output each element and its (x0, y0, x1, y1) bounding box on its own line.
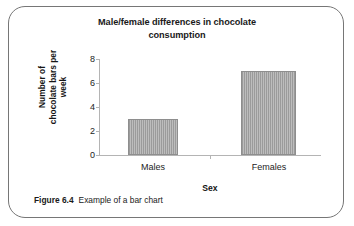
y-tick-mark-2 (96, 131, 99, 132)
x-tick-label-males: Males (123, 162, 183, 173)
y-axis-title-line-2: chocolate bars per week (48, 39, 69, 135)
y-tick-mark-4 (96, 107, 99, 108)
bar-males (128, 119, 178, 155)
bar-females (241, 71, 296, 155)
figure-caption-text: Example of a bar chart (79, 195, 163, 205)
x-tick-label-females: Females (235, 162, 303, 173)
y-axis-tick-labels: 8 6 4 2 0 (81, 59, 95, 155)
y-tick-label-0: 0 (81, 151, 95, 160)
y-tick-label-8: 8 (81, 55, 95, 64)
y-tick-label-4: 4 (81, 103, 95, 112)
y-tick-mark-0 (96, 155, 99, 156)
x-axis-tick-mark (210, 155, 211, 159)
y-axis-title: Number of chocolate bars per week (37, 39, 81, 135)
y-tick-label-6: 6 (81, 79, 95, 88)
chart-title-line-2: consumption (43, 29, 311, 42)
y-tick-mark-8 (96, 59, 99, 60)
chart-title-line-1: Male/female differences in chocolate (43, 16, 311, 29)
x-axis-title: Sex (99, 183, 321, 193)
chart-title: Male/female differences in chocolate con… (43, 16, 311, 41)
y-tick-mark-6 (96, 83, 99, 84)
figure-card: Male/female differences in chocolate con… (8, 6, 344, 218)
figure-caption-number: Figure 6.4 (34, 195, 74, 205)
y-tick-label-2: 2 (81, 127, 95, 136)
y-axis-title-line-1: Number of (37, 39, 48, 135)
y-axis-line (99, 59, 100, 155)
figure-caption: Figure 6.4Example of a bar chart (34, 195, 163, 205)
bar-chart-plot: Number of chocolate bars per week 8 6 4 … (29, 59, 325, 171)
